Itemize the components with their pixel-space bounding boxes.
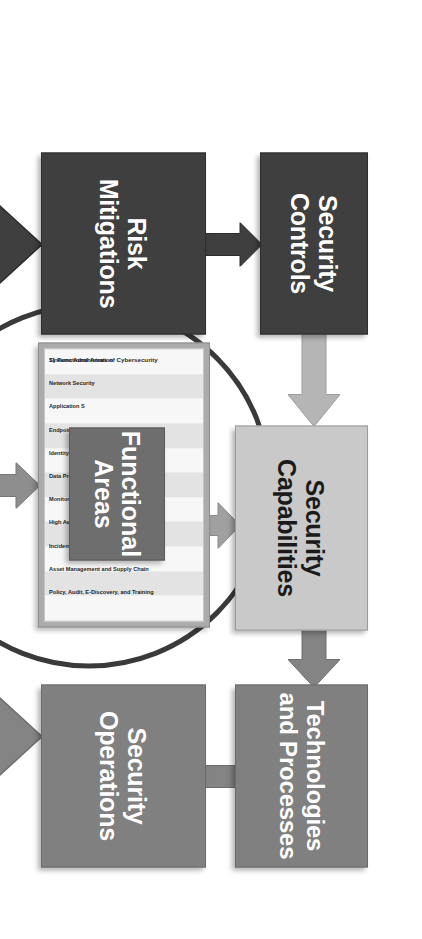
block-risk-mitigations[interactable]: Risk Mitigations — [41, 152, 206, 334]
block-security-operations-label: Security Operations — [96, 685, 152, 866]
list-item: Policy, Audit, E-Discovery, and Training — [49, 589, 185, 612]
arrow-assessment-to-functional-areas — [0, 462, 40, 508]
block-technologies-and-processes[interactable]: Technologies and Processes — [235, 684, 368, 867]
functional-areas-panel[interactable]: 11 Functional Areas of Cybersecurity Sys… — [38, 342, 210, 627]
block-functional-areas-label: Functional Areas — [90, 428, 145, 559]
block-risk-mitigations-label: Risk Mitigations — [96, 153, 152, 333]
functional-areas-panel-inner: 11 Functional Areas of Cybersecurity Sys… — [44, 348, 204, 621]
list-item: Asset Management and Supply Chain — [49, 566, 185, 589]
block-security-operations[interactable]: Security Operations — [41, 684, 206, 867]
diagram-canvas: Security Controls Risk Mitigations Secur… — [0, 0, 422, 939]
block-functional-areas[interactable]: Functional Areas — [69, 427, 165, 560]
block-security-controls-label: Security Controls — [286, 153, 342, 333]
list-item: Application S — [49, 403, 185, 426]
arrow-security-capabilities-to-technologies — [288, 629, 340, 687]
list-item: Network Security — [49, 380, 185, 403]
arrow-risk-mitigations-to-security-controls — [202, 222, 262, 266]
list-item: Systems Administration — [49, 357, 185, 380]
block-security-controls[interactable]: Security Controls — [260, 152, 368, 334]
arrow-security-controls-to-security-capabilities — [288, 334, 340, 426]
block-security-capabilities[interactable]: Security Capabilities — [235, 425, 368, 630]
block-security-capabilities-label: Security Capabilities — [274, 426, 330, 629]
block-technologies-and-processes-label: Technologies and Processes — [275, 685, 329, 866]
diagram-canvas-frame: Security Controls Risk Mitigations Secur… — [0, 0, 422, 939]
